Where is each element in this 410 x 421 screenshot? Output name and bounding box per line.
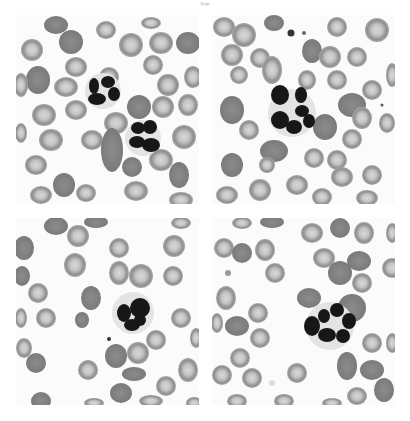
figure-header-fragment: ly/pi [0, 0, 410, 8]
blood-smear-image [16, 15, 199, 204]
blood-smear-image [16, 218, 199, 405]
micrograph-panel-bottom-right [212, 218, 395, 405]
blood-smear-image [212, 218, 395, 405]
micrograph-panel-bottom-left [16, 218, 199, 405]
micrograph-panel-top-left [16, 15, 199, 204]
micrograph-panel-top-right [212, 15, 395, 204]
blood-smear-image [212, 15, 395, 204]
